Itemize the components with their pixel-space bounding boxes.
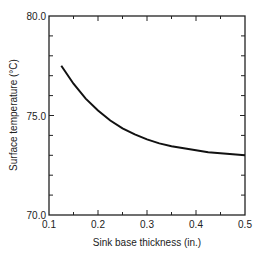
data-curve — [61, 66, 245, 156]
tick-labels: 0.10.20.30.40.570.075.080.0 — [27, 11, 253, 230]
y-axis-label: Surface temperature (°C) — [8, 59, 19, 171]
chart: 0.10.20.30.40.570.075.080.0 Sink base th… — [0, 0, 260, 254]
axis-ticks — [49, 16, 245, 215]
y-tick-label: 70.0 — [27, 210, 47, 221]
x-tick-label: 0.2 — [91, 219, 105, 230]
plot-frame — [49, 16, 245, 215]
x-axis-label: Sink base thickness (in.) — [93, 237, 201, 248]
x-tick-label: 0.3 — [140, 219, 154, 230]
x-tick-label: 0.4 — [189, 219, 203, 230]
y-tick-label: 80.0 — [27, 11, 47, 22]
y-tick-label: 75.0 — [27, 111, 47, 122]
x-tick-label: 0.5 — [238, 219, 252, 230]
